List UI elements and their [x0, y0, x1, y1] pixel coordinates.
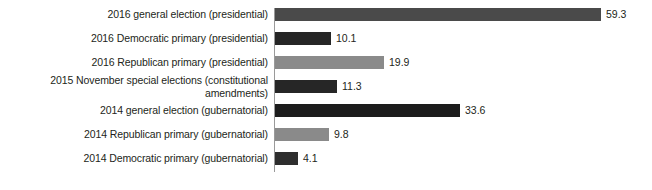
bar-value-label: 11.3 — [342, 79, 362, 93]
bar — [275, 152, 298, 165]
bar-value-label: 9.8 — [334, 127, 349, 141]
bar-value-label: 59.3 — [606, 7, 626, 21]
bar — [275, 104, 460, 117]
bar — [275, 32, 331, 45]
bar-chart: 2016 general election (presidential)59.3… — [0, 0, 652, 190]
bar-category-label: 2015 November special elections (constit… — [18, 74, 268, 99]
bar — [275, 8, 601, 21]
bar-category-label: 2014 general election (gubernatorial) — [18, 104, 268, 117]
bar-value-label: 33.6 — [465, 103, 485, 117]
bar-row: 2014 Democratic primary (gubernatorial)4… — [0, 147, 652, 171]
bar — [275, 56, 384, 69]
bar-category-label: 2014 Democratic primary (gubernatorial) — [18, 152, 268, 165]
bar-row: 2015 November special elections (constit… — [0, 75, 652, 99]
bar-value-label: 10.1 — [336, 31, 356, 45]
bar-value-label: 19.9 — [389, 55, 409, 69]
bar-category-label: 2016 Republican primary (presidential) — [18, 56, 268, 69]
bar-row: 2016 Republican primary (presidential)19… — [0, 51, 652, 75]
bar-category-label: 2016 Democratic primary (presidential) — [18, 32, 268, 45]
bar-category-label: 2014 Republican primary (gubernatorial) — [18, 128, 268, 141]
bar-row: 2016 general election (presidential)59.3 — [0, 3, 652, 27]
bar-category-label: 2016 general election (presidential) — [18, 8, 268, 21]
bar-row: 2016 Democratic primary (presidential)10… — [0, 27, 652, 51]
bar-value-label: 4.1 — [303, 151, 318, 165]
bar-row: 2014 general election (gubernatorial)33.… — [0, 99, 652, 123]
bar-row: 2014 Republican primary (gubernatorial)9… — [0, 123, 652, 147]
bar — [275, 80, 337, 93]
bar — [275, 128, 329, 141]
